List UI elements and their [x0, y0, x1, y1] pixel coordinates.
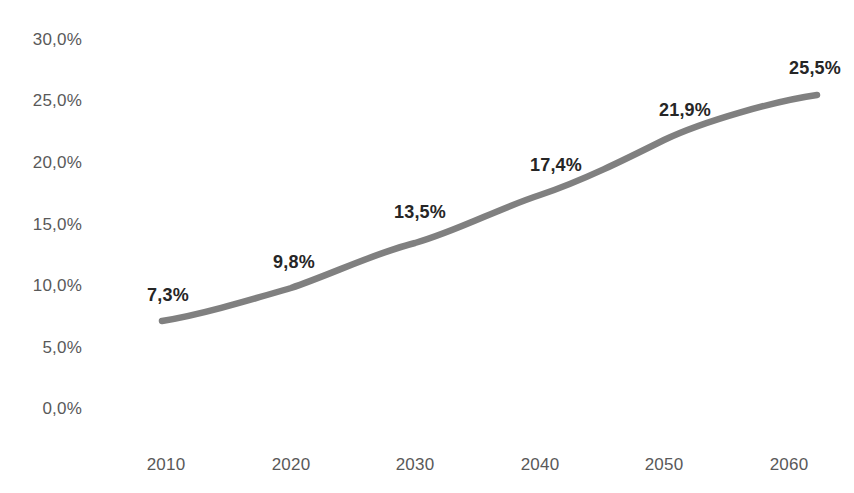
data-label-2060: 25,5% — [789, 58, 841, 79]
data-label-2020: 9,8% — [273, 252, 315, 273]
x-axis-tick-2020: 2020 — [272, 455, 311, 475]
line-chart: 30,0% 25,0% 20,0% 15,0% 10,0% 5,0% 0,0% … — [0, 0, 854, 493]
x-axis-tick-2010: 2010 — [147, 455, 186, 475]
x-axis-tick-2040: 2040 — [521, 455, 560, 475]
x-axis-tick-2050: 2050 — [645, 455, 684, 475]
data-label-2010: 7,3% — [147, 285, 189, 306]
x-axis-tick-2030: 2030 — [396, 455, 435, 475]
data-label-2050: 21,9% — [659, 100, 711, 121]
plot-area — [0, 0, 854, 493]
x-axis-tick-2060: 2060 — [770, 455, 809, 475]
series-line — [162, 95, 817, 321]
data-label-2040: 17,4% — [530, 155, 582, 176]
data-label-2030: 13,5% — [394, 202, 446, 223]
